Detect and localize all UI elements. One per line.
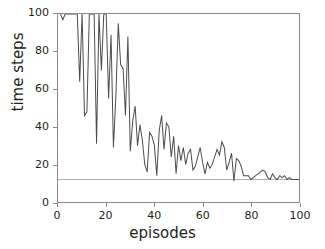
x-tick-label: 60 — [183, 210, 223, 221]
y-axis-title: time steps — [8, 2, 28, 142]
series-polyline — [60, 14, 299, 181]
x-tick-mark — [154, 203, 155, 207]
x-tick-mark — [300, 203, 301, 207]
y-tick-mark — [53, 89, 57, 90]
y-axis-title-wrap: time steps — [8, 2, 28, 142]
x-tick-label: 40 — [134, 210, 174, 221]
y-tick-mark — [53, 51, 57, 52]
x-tick-mark — [251, 203, 252, 207]
x-axis-title: episodes — [0, 225, 325, 242]
x-tick-mark — [57, 203, 58, 207]
x-tick-mark — [106, 203, 107, 207]
x-tick-label: 0 — [37, 210, 77, 221]
x-tick-label: 100 — [280, 210, 320, 221]
x-tick-label: 80 — [231, 210, 271, 221]
x-tick-mark — [203, 203, 204, 207]
y-tick-mark — [53, 13, 57, 14]
series-line-chart — [58, 14, 299, 202]
x-tick-label: 20 — [86, 210, 126, 221]
y-tick-mark — [53, 127, 57, 128]
y-tick-label: 0 — [0, 197, 49, 208]
y-tick-label: 20 — [0, 159, 49, 170]
y-tick-mark — [53, 165, 57, 166]
plot-area — [57, 13, 300, 203]
chart-figure: 020406080100 020406080100 time steps epi… — [0, 0, 325, 249]
